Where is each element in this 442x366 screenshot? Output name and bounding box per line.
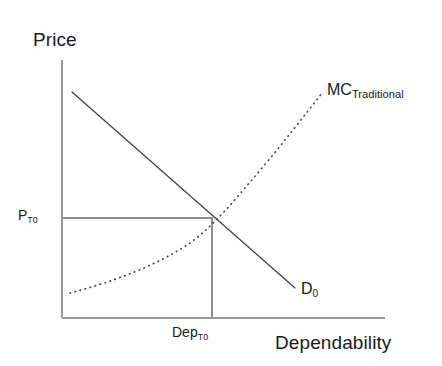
x-axis-title: Dependability [275,333,391,352]
demand-curve-d0 [72,92,295,288]
price-tick-base: P [18,207,27,223]
demand-curve-label: D0 [301,281,318,297]
price-dependability-diagram: Price Dependability PT0 DepT0 MCTraditio… [0,0,442,366]
price-tick-label: PT0 [18,208,38,222]
demand-curve-subscript: 0 [313,288,319,299]
mc-curve-base: MC [327,81,352,98]
dependability-tick-subscript: T0 [198,332,208,342]
dependability-tick-label: DepT0 [172,325,208,339]
plot-canvas [0,0,442,366]
y-axis-title: Price [33,30,77,49]
price-tick-subscript: T0 [27,215,37,225]
demand-curve-base: D [301,280,313,297]
mc-curve-label: MCTraditional [327,82,404,98]
dependability-tick-base: Dep [172,324,198,340]
mc-curve-subscript: Traditional [352,88,404,100]
